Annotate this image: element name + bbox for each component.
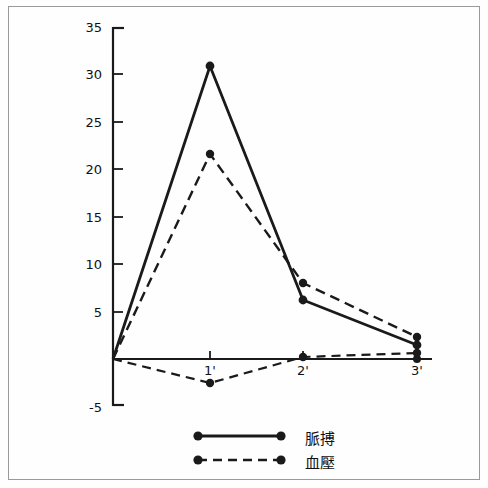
series-line-blood-pressure-lower [113, 353, 417, 383]
legend-label-blood-pressure: 血壓 [305, 451, 335, 472]
series-line-pulse [113, 66, 417, 359]
x-tick-label-2: 2' [292, 363, 314, 378]
chart-figure: 35 30 25 20 15 10 5 -5 1' 2' 3' 脈搏 血壓 [0, 0, 488, 488]
y-tick-label-10: 10 [62, 257, 102, 272]
y-tick-label-minus-5: -5 [62, 400, 102, 415]
series-markers-baseline [413, 355, 421, 363]
legend-swatch-solid [193, 431, 285, 440]
y-tick-label-25: 25 [62, 115, 102, 130]
series-markers-blood-pressure [206, 150, 421, 341]
y-tick-label-15: 15 [62, 210, 102, 225]
y-tick-label-20: 20 [62, 162, 102, 177]
x-tick-label-3: 3' [406, 363, 428, 378]
legend-swatch-dashed [193, 455, 285, 464]
x-tick-label-1: 1' [199, 363, 221, 378]
legend-label-pulse: 脈搏 [305, 427, 335, 448]
series-markers-pulse [206, 62, 422, 350]
y-tick-label-35: 35 [62, 20, 102, 35]
y-tick-label-30: 30 [62, 67, 102, 82]
y-axis-ticks [113, 74, 123, 312]
y-tick-label-5: 5 [62, 305, 102, 320]
x-axis-ticks [210, 351, 417, 359]
